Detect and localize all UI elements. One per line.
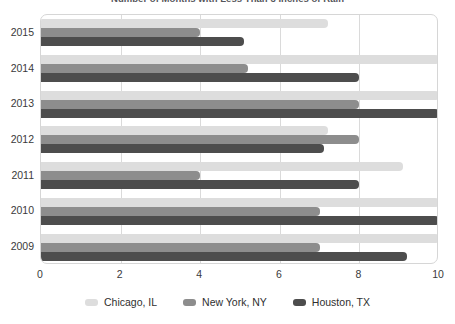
bar-chart: Number of Months with Less Than 3 Inches… (0, 0, 455, 324)
legend-item[interactable]: Houston, TX (293, 296, 370, 308)
y-axis-tick-label: 2010 (0, 204, 34, 216)
y-axis-tick-label: 2011 (0, 169, 34, 181)
legend-label: New York, NY (202, 296, 267, 308)
bar (41, 55, 438, 64)
x-axis-tick-label: 0 (37, 268, 43, 280)
x-axis-tick-label: 2 (117, 268, 123, 280)
y-axis-tick-label: 2012 (0, 133, 34, 145)
chart-legend: Chicago, ILNew York, NYHouston, TX (0, 296, 455, 308)
bar (41, 126, 328, 135)
x-axis-tick-label: 8 (355, 268, 361, 280)
bar (41, 91, 438, 100)
y-axis-tick-label: 2013 (0, 97, 34, 109)
bar (41, 234, 438, 243)
bar (41, 216, 438, 225)
legend-item[interactable]: New York, NY (183, 296, 267, 308)
x-axis-tick-label: 4 (196, 268, 202, 280)
plot-area (40, 14, 438, 264)
bar (41, 28, 200, 37)
chart-title: Number of Months with Less Than 3 Inches… (0, 0, 455, 4)
legend-label: Houston, TX (312, 296, 370, 308)
x-axis-tick-label: 10 (432, 268, 444, 280)
y-axis-tick-label: 2009 (0, 240, 34, 252)
bar (41, 180, 359, 189)
legend-swatch-icon (293, 299, 306, 306)
bar (41, 100, 359, 109)
bar (41, 243, 320, 252)
bar-group (41, 194, 437, 230)
bar (41, 109, 438, 118)
bar (41, 135, 359, 144)
bar-group (41, 15, 437, 51)
legend-item[interactable]: Chicago, IL (85, 296, 157, 308)
bar (41, 198, 438, 207)
bar (41, 252, 407, 261)
y-axis-tick-label: 2015 (0, 26, 34, 38)
legend-label: Chicago, IL (104, 296, 157, 308)
bar-group (41, 86, 437, 122)
y-axis-tick-label: 2014 (0, 62, 34, 74)
legend-swatch-icon (183, 299, 196, 306)
bar-group (41, 229, 437, 264)
bar-group (41, 158, 437, 194)
bar (41, 144, 324, 153)
bar (41, 37, 244, 46)
bar-group (41, 122, 437, 158)
legend-swatch-icon (85, 299, 98, 306)
bar (41, 207, 320, 216)
bar (41, 73, 359, 82)
bar-group (41, 51, 437, 87)
bar (41, 19, 328, 28)
bar (41, 171, 200, 180)
bar (41, 64, 248, 73)
x-axis-tick-label: 6 (276, 268, 282, 280)
bar (41, 162, 403, 171)
